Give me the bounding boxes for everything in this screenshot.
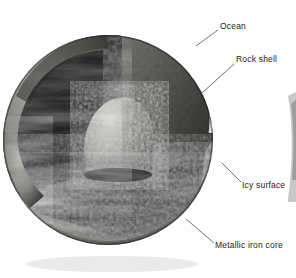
leader-line-metallic-iron-core xyxy=(186,219,214,243)
label-rock-shell: Rock shell xyxy=(236,54,277,64)
core-base-shadow xyxy=(84,168,152,182)
label-icy-surface: Icy surface xyxy=(242,180,285,190)
leader-line-icy-surface xyxy=(222,163,241,182)
moon-cutaway-figure xyxy=(0,0,296,278)
label-ocean: Ocean xyxy=(220,21,246,31)
label-metallic-iron-core: Metallic iron core xyxy=(215,240,283,250)
adjacent-figure-sliver xyxy=(288,92,296,202)
moon-sphere xyxy=(2,12,217,248)
sphere-drop-shadow xyxy=(26,256,198,272)
leader-line-ocean xyxy=(196,30,218,46)
